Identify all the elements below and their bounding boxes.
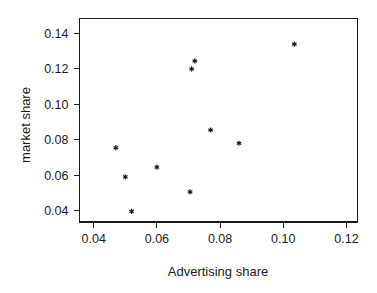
scatter-plot-figure: 0.040.060.080.100.12 0.040.060.080.100.1…: [0, 0, 377, 293]
x-axis-title: Advertising share: [168, 264, 268, 279]
x-tick-label: 0.10: [271, 232, 295, 246]
y-tick-label: 0.12: [44, 62, 68, 76]
plot-canvas: 0.040.060.080.100.12 0.040.060.080.100.1…: [0, 0, 377, 293]
y-axis-title: market share: [18, 87, 33, 163]
y-tick-label: 0.08: [44, 133, 68, 147]
y-tick-label: 0.10: [44, 98, 68, 112]
x-tick-label: 0.04: [82, 232, 106, 246]
y-tick-label: 0.06: [44, 169, 68, 183]
y-tick-label: 0.04: [44, 204, 68, 218]
x-tick-label: 0.08: [208, 232, 232, 246]
y-tick-label: 0.14: [44, 27, 68, 41]
x-tick-label: 0.06: [145, 232, 169, 246]
x-tick-label: 0.12: [334, 232, 358, 246]
